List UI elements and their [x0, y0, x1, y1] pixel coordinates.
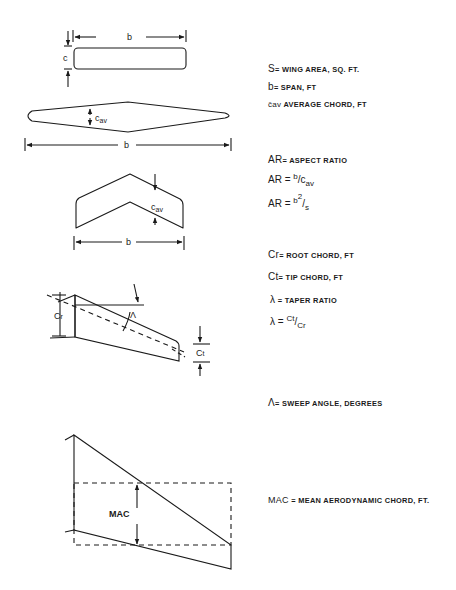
sweep-label: Λ — [130, 310, 136, 320]
ar-formula-2: AR = b2/s — [268, 192, 309, 212]
taper-formula-den: Cr — [297, 321, 305, 330]
taper-formula-lhs: λ = — [270, 316, 284, 327]
text-s: = WING AREA, SQ. FT. — [275, 65, 359, 74]
text-cr: = ROOT CHORD, FT — [279, 251, 354, 260]
text-lambda: = TAPER RATIO — [278, 296, 337, 305]
chevron-cav-label: cav — [151, 202, 163, 213]
tip-chord-label: Ct — [196, 348, 205, 358]
symbol-mac: MAC — [268, 495, 289, 505]
def-tip-chord: Ct= TIP CHORD, FT — [268, 271, 343, 282]
ar-formula-1-den-sub: av — [306, 179, 314, 188]
def-wing-area: S= WING AREA, SQ. FT. — [268, 63, 359, 74]
symbol-s: S — [268, 63, 275, 74]
symbol-ct: Ct — [268, 271, 279, 282]
def-root-chord: Cr= ROOT CHORD, FT — [268, 249, 354, 260]
ar-formula-2-lhs: AR = — [268, 198, 291, 209]
text-ct: = TIP CHORD, FT — [279, 273, 344, 282]
def-average-chord: c̄av AVERAGE CHORD, FT — [268, 100, 367, 109]
diamond-span-label: b — [124, 140, 129, 150]
ar-formula-1: AR = b/cav — [268, 172, 314, 188]
ar-formula-1-num: b — [293, 172, 297, 181]
text-mac: = MEAN AERODYNAMIC CHORD, FT. — [291, 496, 429, 505]
def-taper-ratio: λ = TAPER RATIO — [270, 294, 337, 305]
def-aspect-ratio: AR= ASPECT RATIO — [268, 154, 347, 165]
text-cav: AVERAGE CHORD, FT — [281, 100, 366, 109]
taper-formula: λ = Ct/Cr — [270, 314, 306, 330]
def-sweep-angle: Λ= SWEEP ANGLE, DEGREES — [268, 397, 382, 408]
root-chord-label: Cr — [54, 311, 64, 321]
def-mac: MAC = MEAN AERODYNAMIC CHORD, FT. — [268, 495, 429, 505]
symbol-cr: Cr — [268, 249, 279, 260]
tapered-swept-wing — [47, 284, 210, 376]
symbol-cav: c̄av — [268, 100, 281, 109]
taper-formula-num: Ct — [286, 314, 294, 323]
symbol-ar: AR — [268, 154, 283, 165]
mac-wing — [65, 435, 231, 569]
rect-chord-label: c — [63, 53, 68, 63]
ar-formula-2-den: s — [305, 203, 309, 212]
symbol-lambda: λ — [270, 294, 275, 305]
text-b: = SPAN, FT — [274, 83, 317, 92]
chevron-span-label: b — [126, 237, 131, 247]
diamond-cav-label: cav — [95, 113, 107, 124]
text-ar: = ASPECT RATIO — [283, 156, 348, 165]
def-span: b= SPAN, FT — [268, 81, 316, 92]
rectangular-wing — [64, 30, 186, 87]
symbol-sweep: Λ — [268, 397, 275, 408]
text-sweep: = SWEEP ANGLE, DEGREES — [275, 399, 382, 408]
ar-formula-2-num: b2 — [293, 196, 302, 205]
rect-span-label: b — [127, 32, 132, 42]
ar-formula-1-lhs: AR = — [268, 174, 291, 185]
mac-label: MAC — [109, 509, 130, 519]
